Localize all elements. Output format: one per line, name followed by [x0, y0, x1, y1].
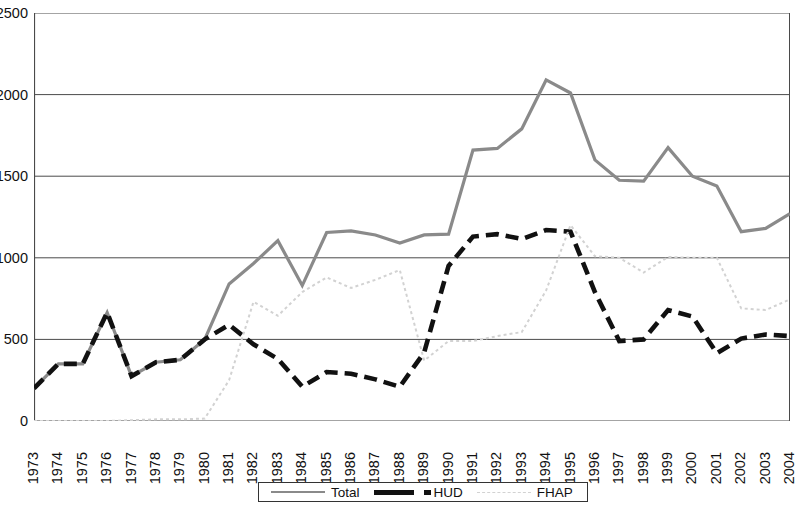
x-tick-label: 1982: [245, 452, 260, 484]
legend-label: HUD: [434, 485, 463, 500]
series-line-hud: [34, 230, 790, 388]
y-tick-label: 500: [4, 332, 28, 347]
x-tick-label: 1992: [489, 452, 504, 484]
light-dotted-line-icon: [477, 492, 531, 493]
x-tick-label: 1983: [270, 452, 285, 484]
fair-housing-complaints-line-chart: 05001000150020002500 1973197419751976197…: [0, 0, 795, 506]
x-tick-label: 1994: [538, 452, 553, 484]
y-tick-label: 2000: [0, 88, 28, 103]
x-tick-label: 1999: [660, 452, 675, 484]
y-tick-label: 0: [20, 414, 28, 429]
x-tick-label: 1975: [75, 452, 90, 484]
series-line-fhap: [34, 225, 790, 421]
x-tick-label: 1980: [197, 452, 212, 484]
x-tick-label: 1990: [441, 452, 456, 484]
x-tick-label: 1997: [611, 452, 626, 484]
x-tick-label: 1986: [343, 452, 358, 484]
solid-gray-line-icon: [271, 491, 325, 493]
x-tick-label: 1995: [563, 452, 578, 484]
x-tick-label: 2000: [684, 452, 699, 484]
x-tick-label: 1998: [636, 452, 651, 484]
x-tick-label: 2003: [758, 452, 773, 484]
x-tick-label: 1984: [294, 452, 309, 484]
legend-label: Total: [331, 485, 360, 500]
hud-marker-icon: [424, 490, 431, 495]
x-tick-label: 1979: [172, 452, 187, 484]
x-tick-label: 1977: [124, 452, 139, 484]
x-tick-label: 1996: [587, 452, 602, 484]
plot-svg: [34, 13, 790, 421]
x-tick-label: 1988: [392, 452, 407, 484]
x-tick-label: 1987: [367, 452, 382, 484]
y-axis: 05001000150020002500: [0, 0, 28, 430]
legend-item-hud[interactable]: HUD: [368, 483, 471, 501]
x-tick-label: 1991: [465, 452, 480, 484]
x-tick-label: 2004: [782, 452, 795, 484]
x-tick-label: 1978: [148, 452, 163, 484]
y-tick-label: 2500: [0, 6, 28, 21]
x-tick-label: 1985: [319, 452, 334, 484]
y-tick-label: 1000: [0, 251, 28, 266]
x-tick-label: 1976: [99, 452, 114, 484]
x-tick-label: 1989: [416, 452, 431, 484]
x-tick-label: 1974: [50, 452, 65, 484]
plot-area: [34, 13, 790, 421]
x-tick-label: 2002: [733, 452, 748, 484]
x-tick-label: 1993: [514, 452, 529, 484]
legend-item-fhap[interactable]: FHAP: [471, 483, 581, 501]
y-tick-label: 1500: [0, 169, 28, 184]
x-tick-label: 1973: [26, 452, 41, 484]
legend-label: FHAP: [537, 485, 573, 500]
thick-black-dash-icon: [374, 490, 414, 495]
chart-legend: TotalHUDFHAP: [258, 482, 588, 502]
legend-item-total[interactable]: Total: [265, 483, 368, 501]
x-axis: 1973197419751976197719781979198019811982…: [34, 426, 790, 484]
series-line-total: [34, 80, 790, 388]
x-tick-label: 2001: [709, 452, 724, 484]
x-tick-label: 1981: [221, 452, 236, 484]
